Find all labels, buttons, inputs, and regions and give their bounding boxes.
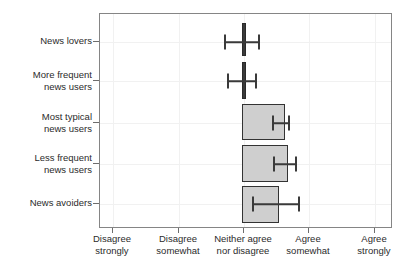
gridline-vertical-5 [375,14,376,227]
y-axis-tick-4 [93,163,99,164]
y-axis-tick-3 [93,122,99,123]
error-bar-cap-high-less-frequent-news-users [295,157,297,172]
y-axis-label-news-avoiders: News avoiders [0,197,92,209]
y-axis-tick-2 [93,80,99,81]
error-bar-line-more-frequent-news-users [227,80,256,82]
error-bar-line-most-typical-news-users [272,122,289,124]
gridline-vertical-2 [179,14,180,227]
error-bar-cap-low-news-avoiders [252,197,254,212]
x-axis-label-agree-strongly: Agree strongly [319,233,414,256]
y-axis-label-most-typical-news-users: Most typical news users [0,111,92,134]
error-bar-cap-high-news-avoiders [298,197,300,212]
y-axis-tick-1 [93,41,99,42]
error-bar-cap-low-more-frequent-news-users [227,74,229,89]
error-bar-line-news-avoiders [252,203,299,205]
error-bar-cap-low-news-lovers [224,35,226,50]
error-bar-cap-high-most-typical-news-users [288,116,290,131]
y-axis-label-news-lovers: News lovers [0,35,92,47]
bar-news-lovers [242,23,246,56]
error-bar-line-news-lovers [224,41,259,43]
chart-root: News lovers More frequent news users Mos… [0,0,414,275]
gridline-vertical-1 [113,14,114,227]
gridline-vertical-4 [309,14,310,227]
error-bar-line-less-frequent-news-users [273,163,296,165]
plot-area [99,13,392,228]
error-bar-cap-high-more-frequent-news-users [255,74,257,89]
y-axis-label-less-frequent-news-users: Less frequent news users [0,152,92,175]
error-bar-cap-low-most-typical-news-users [272,116,274,131]
y-axis-tick-5 [93,203,99,204]
error-bar-cap-high-news-lovers [258,35,260,50]
error-bar-cap-low-less-frequent-news-users [273,157,275,172]
y-axis-label-more-frequent-news-users: More frequent news users [0,69,92,92]
